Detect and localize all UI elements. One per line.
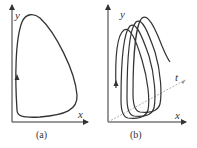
y-label: y [14,9,20,21]
caption-a: (a) [36,129,47,141]
direction-arrow-icon [114,80,119,86]
panel-b: y t x (b) [108,5,186,141]
y-label: y [119,8,125,20]
x-label: x [174,109,180,121]
limit-cycle [16,15,77,118]
x-label: x [77,108,83,120]
t-label: t [175,71,179,83]
caption-b: (b) [130,129,142,141]
figure: y x (a) y t x (b) [0,0,197,148]
panel-a: y x (a) [12,5,88,141]
